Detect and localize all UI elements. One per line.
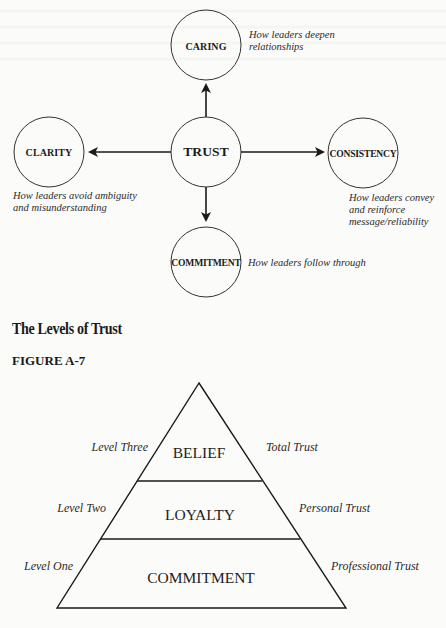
pyramid-tier-commitment: COMMITMENT bbox=[147, 569, 255, 587]
caption-caring: How leaders deepen relationships bbox=[249, 29, 335, 53]
level-label-three: Level Three bbox=[91, 440, 148, 455]
caption-clarity: How leaders avoid ambiguity and misunder… bbox=[13, 190, 137, 214]
pyramid-tier-loyalty: LOYALTY bbox=[165, 506, 235, 524]
caption-clarity-line-1: How leaders avoid ambiguity bbox=[13, 190, 137, 202]
caption-caring-line-1: How leaders deepen bbox=[249, 29, 335, 41]
section-heading: The Levels of Trust bbox=[12, 320, 122, 338]
caption-consistency-line-2: and reinforce bbox=[349, 204, 434, 216]
trust-type-total: Total Trust bbox=[266, 440, 318, 455]
node-label-caring: CARING bbox=[185, 41, 226, 52]
caption-consistency-line-1: How leaders convey bbox=[349, 192, 434, 204]
diagram-canvas bbox=[0, 0, 446, 628]
node-label-commitment: COMMITMENT bbox=[171, 257, 240, 268]
trust-type-professional: Professional Trust bbox=[331, 559, 419, 574]
caption-caring-line-2: relationships bbox=[249, 41, 335, 53]
caption-consistency-line-3: message/reliability bbox=[349, 216, 434, 228]
caption-commitment-line-1: How leaders follow through bbox=[248, 257, 366, 269]
level-label-two: Level Two bbox=[57, 501, 106, 516]
trust-type-personal: Personal Trust bbox=[299, 501, 370, 516]
node-label-trust: TRUST bbox=[183, 144, 229, 160]
pyramid-tier-belief: BELIEF bbox=[173, 444, 226, 462]
figure-label: FIGURE A-7 bbox=[12, 353, 85, 369]
node-label-consistency: CONSISTENCY bbox=[329, 148, 396, 159]
caption-commitment: How leaders follow through bbox=[248, 257, 366, 269]
level-label-one: Level One bbox=[24, 559, 73, 574]
node-label-clarity: CLARITY bbox=[26, 147, 73, 158]
caption-consistency: How leaders convey and reinforce message… bbox=[349, 192, 434, 228]
caption-clarity-line-2: and misunderstanding bbox=[13, 202, 137, 214]
